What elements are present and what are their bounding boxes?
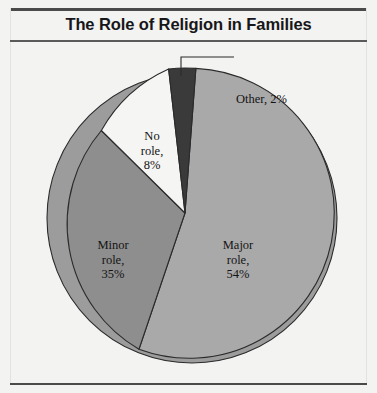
page-title: The Role of Religion in Families xyxy=(10,13,367,35)
chart-page: The Role of Religion in Families Other, … xyxy=(0,0,377,393)
slice-label-no-role-line2: role, xyxy=(124,144,180,159)
slice-label-minor-role: Minor role, 35% xyxy=(78,238,148,282)
slice-label-no-role: No role, 8% xyxy=(124,129,180,173)
top-rule xyxy=(10,8,367,11)
slice-label-major-role-line1: Major xyxy=(203,238,273,253)
slice-label-minor-role-line2: role, xyxy=(78,253,148,268)
slice-label-minor-role-line1: Minor xyxy=(78,238,148,253)
slice-label-no-role-line3: 8% xyxy=(124,158,180,173)
pie-chart-plot-area: Other, 2% No role, 8% Minor role, 35% Ma… xyxy=(0,42,377,383)
slice-label-no-role-line1: No xyxy=(124,129,180,144)
slice-label-minor-role-line3: 35% xyxy=(78,267,148,282)
pie-chart-svg xyxy=(0,42,377,383)
slice-label-other: Other, 2% xyxy=(236,92,287,106)
slice-label-major-role-line3: 54% xyxy=(203,267,273,282)
slice-label-major-role-line2: role, xyxy=(203,253,273,268)
slice-label-major-role: Major role, 54% xyxy=(203,238,273,282)
bottom-rule xyxy=(10,383,367,385)
